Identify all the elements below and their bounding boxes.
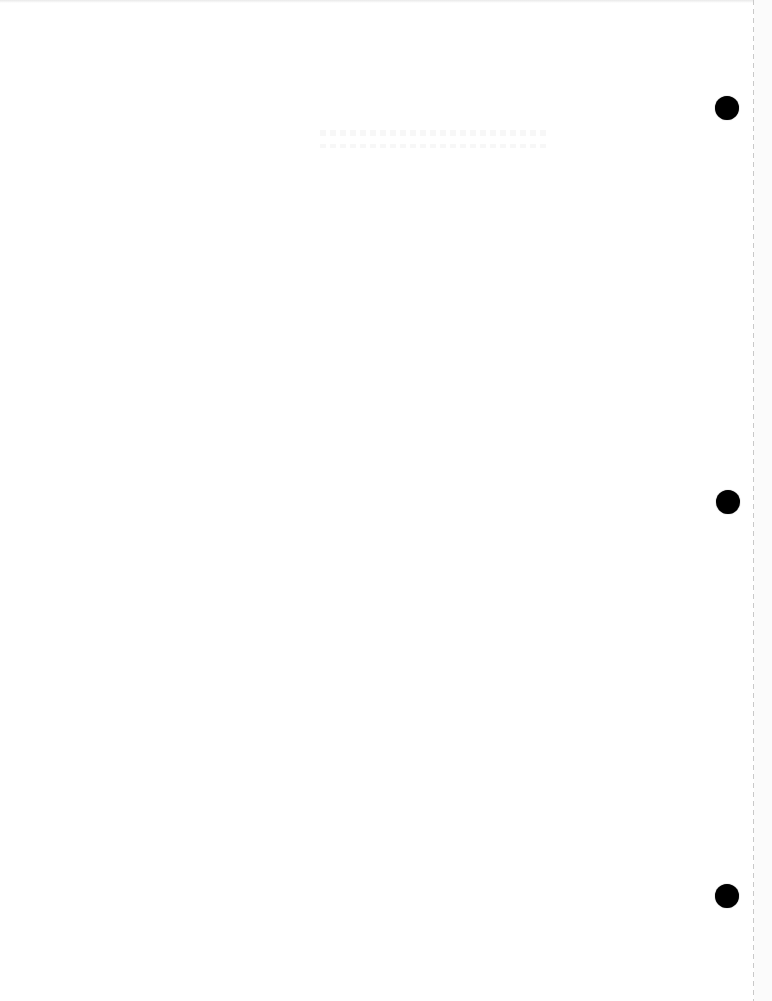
perforation-line [753, 0, 754, 1001]
tear-off-strip [754, 0, 772, 1001]
scanned-page [0, 0, 772, 1001]
punch-hole-bottom [715, 884, 739, 908]
page-top-edge [0, 0, 772, 3]
punch-hole-top [715, 96, 739, 120]
bleed-through-marks [320, 130, 550, 154]
punch-hole-middle [716, 490, 740, 514]
